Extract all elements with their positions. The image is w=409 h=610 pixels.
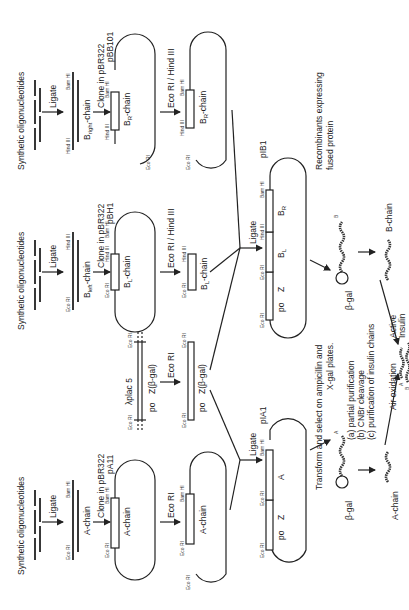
- br-fragment-label: Bright-chain: [82, 99, 93, 140]
- bl-ligate-label: Ligate: [48, 245, 58, 268]
- step-a: (a) partial purification: [346, 360, 356, 440]
- pia1-plasmid-group: Eco RI Eco RI Bam HI po Z A pIA1: [258, 406, 306, 562]
- lplac-frag-ecori-right: Eco RI: [181, 333, 187, 348]
- ligate-b-join: Ligate: [210, 110, 262, 370]
- br-cut-insert: [186, 90, 194, 128]
- pbb101-bamhi: Bam HI: [104, 81, 110, 98]
- pbh1-hindiii: Hind III: [104, 246, 110, 262]
- lplac-column: λplac 5 Eco RI Eco RI po Z(β-gal) Eco RI…: [124, 332, 207, 430]
- pbb101-insert: [111, 92, 119, 130]
- active-insulin-line2: Insulin: [397, 313, 407, 338]
- pib1-bl-segment: [266, 232, 273, 272]
- a-cut-label: A-chain: [198, 505, 208, 534]
- pbh1-insert: [111, 254, 119, 290]
- br-ligate-label: Ligate: [48, 85, 58, 108]
- lplac-label: λplac 5: [124, 378, 134, 405]
- a-ecori-label: Eco RI: [166, 492, 176, 518]
- br-oligo-fragments: [35, 80, 40, 150]
- a-cut-insert: [186, 494, 194, 544]
- a-frag-ecori: Eco RI: [65, 545, 71, 560]
- protein-a-bgal: β-gal: [344, 501, 354, 520]
- lplac-fragment: [188, 342, 194, 420]
- bl-cut-label: BL-chain: [199, 258, 210, 290]
- a-ligate-label: Ligate: [48, 495, 58, 518]
- a-chain-column: Synthetic oligonucleotides Ligate Eco RI…: [16, 452, 226, 590]
- pbb101-hindiii: Hind III: [104, 124, 110, 140]
- a-chain-free-label: A-chain: [390, 491, 400, 520]
- pia1-site-3: Bam HI: [259, 439, 265, 456]
- pib1-site-1: Eco RI: [259, 313, 265, 328]
- protein-b-chain-label: B: [333, 214, 339, 218]
- bl-cut-fragment: [188, 254, 196, 290]
- bl-cut-hindiii: Hind III: [181, 246, 187, 262]
- figure-stage: Synthetic oligonucleotides Ligate Eco RI…: [0, 0, 409, 610]
- a-synthetic-label: Synthetic oligonucleotides: [16, 477, 26, 575]
- ligate-b-label: Ligate: [248, 221, 258, 244]
- pib1-site-4: Bam HI: [259, 181, 265, 198]
- pia1-po-z-segment: [266, 500, 273, 550]
- lplac-ecori-left: Eco RI: [127, 415, 133, 430]
- transform-text-line1: Transform and select on ampicillin and: [314, 345, 324, 490]
- br-cut-bamhi: Bam HI: [179, 79, 185, 96]
- protein-b-bgal: β-gal: [344, 291, 354, 310]
- insulin-b-label: B: [404, 386, 409, 390]
- pbb101-insert-label: BR-chain: [122, 93, 133, 126]
- a-oligo-fragments: [35, 490, 40, 560]
- pib1-to-protein-arrow: [310, 260, 330, 270]
- pia1-site-1: Eco RI: [259, 543, 265, 558]
- lplac-frag-ecori-left: Eco RI: [181, 413, 187, 428]
- br-cut-plasmid: [190, 32, 226, 168]
- b-right-column: Synthetic oligonucleotides Ligate Hind I…: [16, 31, 226, 170]
- pbb101-plasmid: [115, 34, 155, 164]
- br-synthetic-label: Synthetic oligonucleotides: [16, 72, 26, 170]
- pa11-plasmid: [115, 460, 155, 580]
- lplac-frag-po: po: [197, 402, 207, 412]
- pia1-z: Z: [276, 515, 286, 520]
- bl-frag-ecori: Eco RI: [65, 297, 71, 312]
- pa11-name: pA11: [105, 455, 115, 474]
- bl-digest-label: Eco RI / Hind III: [166, 208, 176, 268]
- br-digest-label: Eco RI / Hind III: [166, 48, 176, 108]
- pia1-plasmid: [270, 419, 306, 562]
- ligate-a-join: Ligate: [210, 390, 262, 510]
- pia1-a: A: [276, 474, 286, 480]
- pbh1-name: pBH1: [105, 202, 115, 224]
- a-chain-free: A-chain: [386, 452, 400, 520]
- fused-protein-b: β-gal B: [333, 214, 354, 310]
- pib1-po-z-segment: [266, 272, 273, 320]
- lplac-z: Z(β-gal): [147, 364, 157, 394]
- pib1-br-segment: [266, 190, 273, 232]
- lplac-po: po: [147, 402, 157, 412]
- step-c: (c) purification of insulin chains: [366, 324, 376, 440]
- pib1-bl: BL: [276, 248, 287, 258]
- a-fragment-label: A-chain: [82, 506, 92, 535]
- pib1-po: po: [276, 302, 286, 312]
- br-frag-bamhi: Bam HI: [65, 73, 71, 90]
- pia1-a-segment: [266, 450, 273, 500]
- bl-synthetic-label: Synthetic oligonucleotides: [16, 232, 26, 330]
- pbb101-ecori: Eco RI: [145, 155, 151, 170]
- pib1-z: Z: [276, 287, 286, 292]
- pa11-bamhi: Bam HI: [104, 487, 110, 504]
- br-cut-label: BR-chain: [198, 91, 209, 124]
- protein-a-chain-label: A: [333, 430, 339, 434]
- b-chain-free-label: B-chain: [384, 203, 394, 232]
- lplac-ecori-label: Eco RI: [166, 352, 176, 378]
- a-cut-plasmid: [190, 452, 226, 582]
- lplac-ecori-right: Eco RI: [127, 333, 133, 348]
- pib1-site-2: Eco RI: [259, 265, 265, 280]
- recombinants-text-line2: fused protein: [325, 121, 335, 170]
- a-cut-ecori: Eco RI: [179, 541, 185, 556]
- insulin-a-label: A: [398, 382, 404, 386]
- step-b: (b) CNBr cleavage: [356, 370, 366, 440]
- bl-cut-ecori: Eco RI: [181, 283, 187, 298]
- pia1-name: pIA1: [258, 406, 268, 424]
- pia1-site-2: Eco RI: [259, 491, 265, 506]
- pa11-ecori: Eco RI: [104, 543, 110, 558]
- pbh1-plasmid: [115, 212, 155, 332]
- pib1-name: pIB1: [258, 140, 268, 158]
- pa11-insert: [111, 498, 119, 548]
- lplac-frag-z: Z(β-gal): [197, 364, 207, 394]
- transform-text-line2: X-gal plates.: [325, 343, 335, 390]
- b-left-column: Synthetic oligonucleotides Ligate Eco RI…: [16, 202, 210, 332]
